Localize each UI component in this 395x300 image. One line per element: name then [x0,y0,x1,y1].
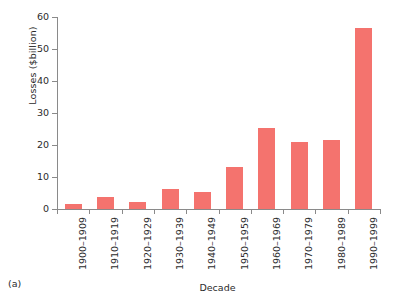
y-axis-tick-label: 30 [37,107,49,118]
bar[interactable] [162,189,179,209]
y-axis-tick: 50 [52,49,57,50]
bar[interactable] [291,142,308,209]
x-axis-tick [186,209,187,214]
x-axis-tick-label: 1920–1929 [142,217,153,287]
y-axis-line [57,17,58,209]
x-axis-tick [219,209,220,214]
y-axis-tick: 10 [52,177,57,178]
y-axis-tick: 20 [52,145,57,146]
bar[interactable] [194,192,211,209]
x-axis-tick-label: 1910–1919 [109,217,120,287]
x-axis-tick [348,209,349,214]
y-axis-tick-label: 50 [37,43,49,54]
x-axis-tick-label: 1940–1949 [206,217,217,287]
bar[interactable] [258,128,275,209]
x-axis-tick-label: 1900–1909 [77,217,88,287]
y-axis-tick-label: 20 [37,139,49,150]
x-axis-title-text: Decade [199,282,235,293]
plot-area: 01020304050601900–19091910–19191920–1929… [57,17,380,209]
bar[interactable] [226,167,243,209]
y-axis-tick: 30 [52,113,57,114]
x-axis-tick [251,209,252,214]
x-axis-tick-label: 1970–1979 [303,217,314,287]
y-axis-tick-label: 60 [37,11,49,22]
x-axis-tick [154,209,155,214]
bar[interactable] [129,202,146,209]
x-axis-tick [57,209,58,214]
y-axis-tick: 60 [52,17,57,18]
x-axis-tick-label: 1990–1999 [368,217,379,287]
panel-caption: (a) [8,278,21,289]
x-axis-title: Decade [0,282,395,293]
bar[interactable] [355,28,372,209]
y-axis-tick: 40 [52,81,57,82]
x-axis-tick [122,209,123,214]
x-axis-tick-label: 1980–1989 [336,217,347,287]
x-axis-tick-label: 1950–1959 [239,217,250,287]
x-axis-tick-label: 1930–1939 [174,217,185,287]
x-axis-tick [315,209,316,214]
y-axis-title: Losses ($billion) [27,0,38,146]
x-axis-tick-label: 1960–1969 [271,217,282,287]
x-axis-tick [283,209,284,214]
figure-panel: Losses ($billion) 01020304050601900–1909… [0,0,395,300]
x-axis-tick [89,209,90,214]
y-axis-tick-label: 0 [43,203,49,214]
x-axis-tick [380,209,381,214]
bar[interactable] [65,204,82,209]
y-axis-tick-label: 10 [37,171,49,182]
bar[interactable] [323,140,340,209]
bar[interactable] [97,197,114,209]
y-axis-tick-label: 40 [37,75,49,86]
